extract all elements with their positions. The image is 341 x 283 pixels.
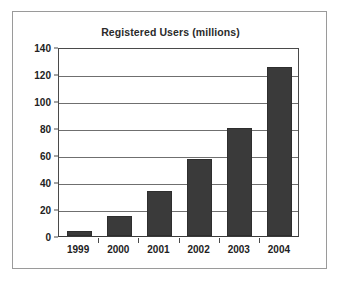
y-tick-label: 60 (11, 151, 51, 162)
y-tick-label: 120 (11, 70, 51, 81)
y-tick-label: 40 (11, 178, 51, 189)
x-tick-label: 2004 (257, 244, 301, 255)
gridline (59, 211, 298, 212)
figure-frame: Registered Users (millions) 020406080100… (12, 11, 327, 269)
x-tick-label: 2003 (217, 244, 261, 255)
gridline (59, 184, 298, 185)
chart-title: Registered Users (millions) (13, 26, 328, 38)
x-tick-mark (259, 238, 260, 243)
x-tick-label: 2000 (96, 244, 140, 255)
y-tick-label: 140 (11, 43, 51, 54)
x-tick-label: 2002 (177, 244, 221, 255)
bar (227, 128, 252, 236)
gridline (59, 76, 298, 77)
y-tick-label: 80 (11, 124, 51, 135)
y-tick-label: 0 (11, 232, 51, 243)
x-tick-mark (179, 238, 180, 243)
gridline (59, 103, 298, 104)
y-tick-label: 20 (11, 205, 51, 216)
x-tick-mark (98, 238, 99, 243)
bar (147, 191, 172, 236)
x-tick-label: 2001 (136, 244, 180, 255)
bar (107, 216, 132, 236)
bar (267, 67, 292, 236)
bar (67, 231, 92, 236)
y-tick-label: 100 (11, 97, 51, 108)
x-tick-label: 1999 (56, 244, 100, 255)
plot-area (58, 48, 299, 237)
gridline (59, 130, 298, 131)
x-tick-mark (219, 238, 220, 243)
gridline (59, 157, 298, 158)
x-tick-mark (138, 238, 139, 243)
bar (187, 159, 212, 236)
